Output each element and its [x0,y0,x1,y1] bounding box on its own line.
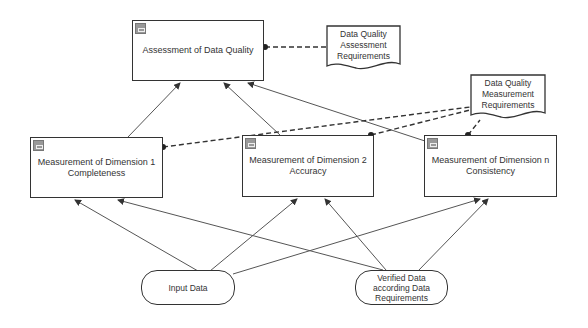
dimension-2-node[interactable]: Measurement of Dimension 2Accuracy [242,135,374,197]
assessment-label: Assessment of Data Quality [142,45,253,56]
process-icon [135,23,146,34]
verified-data-node[interactable]: Verified Dataaccording DataRequirements [355,270,448,305]
assessment-requirements-text: Data QualityAssessmentRequirements [337,29,390,62]
dimension-1-title: Measurement of Dimension 1 [38,157,156,167]
input-data-label: Input Data [168,283,207,293]
dimension-n-subtitle: Consistency [466,166,515,176]
measurement-requirements-text: Data QualityMeasurementRequirements [482,78,535,111]
dimension-1-subtitle: Completeness [68,168,126,178]
dimension-2-title: Measurement of Dimension 2 [249,155,367,165]
measurement-requirements-document[interactable]: Data QualityMeasurementRequirements [471,75,545,115]
dimension-2-text: Measurement of Dimension 2Accuracy [249,155,367,177]
doc-line: Measurement [482,89,534,99]
pill-line: Verified Data [377,273,426,283]
verified-data-text: Verified Dataaccording DataRequirements [373,273,430,303]
dimension-2-subtitle: Accuracy [289,166,326,176]
doc-line: Data Quality [485,78,532,88]
dimension-1-text: Measurement of Dimension 1Completeness [38,157,156,179]
input-data-node[interactable]: Input Data [141,270,235,305]
pill-line: according Data [373,283,430,293]
process-icon [33,140,44,151]
doc-line: Requirements [482,100,535,110]
process-icon [245,138,256,149]
dimension-n-text: Measurement of Dimension nConsistency [432,155,550,177]
doc-line: Requirements [337,51,390,61]
dimension-n-node[interactable]: Measurement of Dimension nConsistency [424,135,557,197]
doc-line: Assessment [340,40,386,50]
dimension-1-node[interactable]: Measurement of Dimension 1Completeness [30,137,163,198]
pill-line: Requirements [375,293,428,303]
assessment-node[interactable]: Assessment of Data Quality [132,20,264,81]
dimension-n-title: Measurement of Dimension n [432,155,550,165]
assessment-requirements-document[interactable]: Data QualityAssessmentRequirements [327,26,400,66]
process-icon [427,138,438,149]
doc-line: Data Quality [340,29,387,39]
